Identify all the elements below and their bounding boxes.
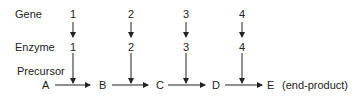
end-product-note: (end-product)	[282, 80, 348, 91]
metabolite-c: C	[156, 80, 164, 91]
metabolite-a: A	[42, 80, 49, 91]
gene-2: 2	[128, 9, 134, 20]
enzyme-2: 2	[128, 42, 134, 53]
metabolite-b: B	[99, 80, 106, 91]
enzyme-4: 4	[239, 42, 245, 53]
enzyme-1: 1	[70, 42, 76, 53]
gene-3: 3	[183, 9, 189, 20]
gene-label: Gene	[15, 9, 42, 20]
precursor-label: Precursor	[17, 66, 65, 77]
enzyme-3: 3	[183, 42, 189, 53]
gene-4: 4	[239, 9, 245, 20]
enzyme-label: Enzyme	[15, 42, 55, 53]
metabolite-e: E	[267, 80, 274, 91]
metabolite-d: D	[212, 80, 220, 91]
gene-1: 1	[70, 9, 76, 20]
